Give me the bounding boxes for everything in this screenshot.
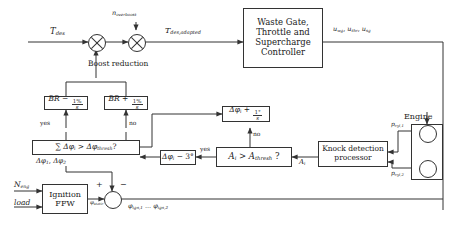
signal-label-t-des-adapted: Tdes,adapted xyxy=(165,27,201,35)
summing-junction-ignition xyxy=(104,191,122,209)
engine-cylinder-2 xyxy=(419,160,437,178)
engine-cylinder-1 xyxy=(419,125,437,143)
signal-label-delta-phis: Δφ1, Δφ2 xyxy=(36,158,66,166)
amplitude-threshold-test-block[interactable]: Ai > Athresh ? xyxy=(216,147,292,167)
sum-phi-threshold-test-block[interactable]: ∑ Δφi > Δφthresh? xyxy=(32,140,140,155)
sign-label-plus: + xyxy=(96,181,103,189)
signal-label-phi-static: φstatic xyxy=(90,200,103,206)
multiplier-boost-reduction xyxy=(88,34,106,52)
sigma-symbol: ∑ xyxy=(56,142,61,151)
signal-label-n-eng: Neng xyxy=(14,181,29,190)
knock-detection-processor-block[interactable]: Knock detection processor xyxy=(318,141,388,167)
label-engine: Engine xyxy=(404,113,433,121)
signal-label-phi-ign: φign,1 ... φign,2 xyxy=(128,203,168,210)
signal-label-p-cyl-1: pcyl,1 xyxy=(391,121,404,129)
ignition-line-2: FFW xyxy=(55,199,74,208)
knock-line-2: processor xyxy=(334,154,371,163)
br-minus-op: − xyxy=(62,94,68,103)
boost-ratio-increment-block[interactable]: BR + 1%s xyxy=(104,96,148,110)
label-boost-reduction: Boost reduction xyxy=(88,60,148,68)
ignition-line-1: Ignition xyxy=(49,190,81,199)
br-minus-rate: 1%s xyxy=(72,99,83,111)
waste-gate-throttle-supercharge-controller-block[interactable]: Waste Gate, Throttle and Supercharge Con… xyxy=(243,8,323,68)
br-plus-op: + xyxy=(122,94,128,103)
branch-label-yes-left: yes xyxy=(40,120,50,126)
signal-label-n-overboost: noverboost xyxy=(112,10,136,17)
signal-label-actuators: uwg, uthr, usg xyxy=(333,26,371,33)
boost-ratio-decrement-block[interactable]: BR − 1%s xyxy=(44,96,88,110)
block-diagram-canvas: Tdes noverboost Tdes,adapted uwg, uthr, … xyxy=(0,0,460,225)
signal-label-t-des: Tdes xyxy=(50,27,65,37)
phi-advance-block[interactable]: Δφi + 1°s xyxy=(222,106,270,122)
br-minus-base: BR xyxy=(48,94,59,103)
br-plus-rate: 1%s xyxy=(132,99,143,111)
branch-label-no-middle: no xyxy=(253,131,260,137)
branch-label-no-right: no xyxy=(129,120,136,126)
br-plus-base: BR xyxy=(108,94,119,103)
branch-label-yes-middle: yes xyxy=(200,146,210,152)
signal-label-a-i: Ai xyxy=(299,159,305,167)
ignition-feedforward-block[interactable]: Ignition FFW xyxy=(42,184,88,214)
signal-label-p-cyl-2: pcyl,2 xyxy=(391,170,404,178)
signal-label-load: load xyxy=(14,199,30,207)
controller-line-4: Controller xyxy=(261,48,305,58)
phi-advance-rate: 1°s xyxy=(253,110,261,122)
sign-label-minus: − xyxy=(120,181,127,189)
multiplier-overboost xyxy=(128,34,146,52)
phi-retard-block[interactable]: Δφi − 3° xyxy=(160,150,196,165)
